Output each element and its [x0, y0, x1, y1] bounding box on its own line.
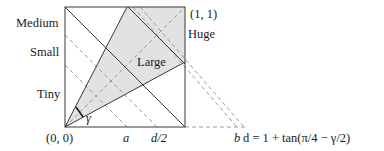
label-tiny: Tiny: [37, 87, 61, 101]
corner-top-right-label: (1, 1): [190, 7, 217, 21]
tick-label-a: a: [123, 131, 129, 145]
corner-origin-label: (0, 0): [46, 131, 73, 145]
label-medium: Medium: [16, 16, 59, 30]
formula-d: d = 1 + tan(π/4 − γ/2): [243, 131, 350, 145]
label-small: Small: [30, 45, 60, 59]
tick-label-d-half: d/2: [151, 131, 167, 145]
tick-label-b: b: [234, 131, 240, 145]
label-large: Large: [137, 55, 166, 69]
geometric-diagram: γ (1, 1) (0, 0) Medium Small Tiny Huge L…: [0, 0, 384, 151]
label-huge: Huge: [188, 27, 216, 41]
